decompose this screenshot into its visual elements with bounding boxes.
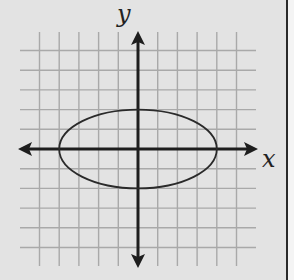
y-axis-label: y	[116, 0, 131, 28]
axes	[18, 31, 258, 268]
coordinate-plane: x y	[0, 0, 294, 280]
x-axis-label: x	[262, 145, 276, 173]
graph-figure: x y	[0, 0, 288, 280]
